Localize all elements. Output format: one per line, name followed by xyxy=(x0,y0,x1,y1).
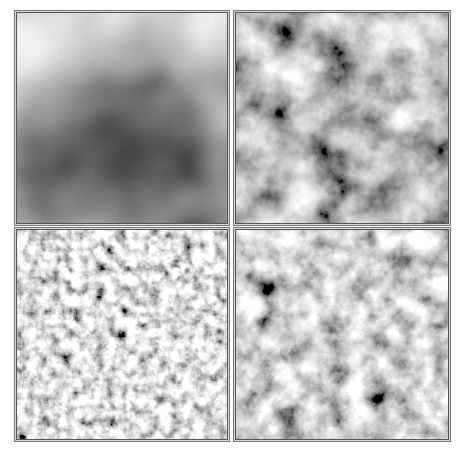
noise-panel-bottom-left xyxy=(16,229,228,440)
noise-panel-bottom-right xyxy=(235,229,449,440)
mixed-noise-image xyxy=(236,230,448,439)
speckled-noise-image xyxy=(17,230,227,439)
noise-panel-top-right xyxy=(235,12,449,224)
cloudy-noise-image xyxy=(236,13,448,223)
noise-panel-top-left xyxy=(16,12,228,224)
smooth-noise-image xyxy=(17,13,227,223)
